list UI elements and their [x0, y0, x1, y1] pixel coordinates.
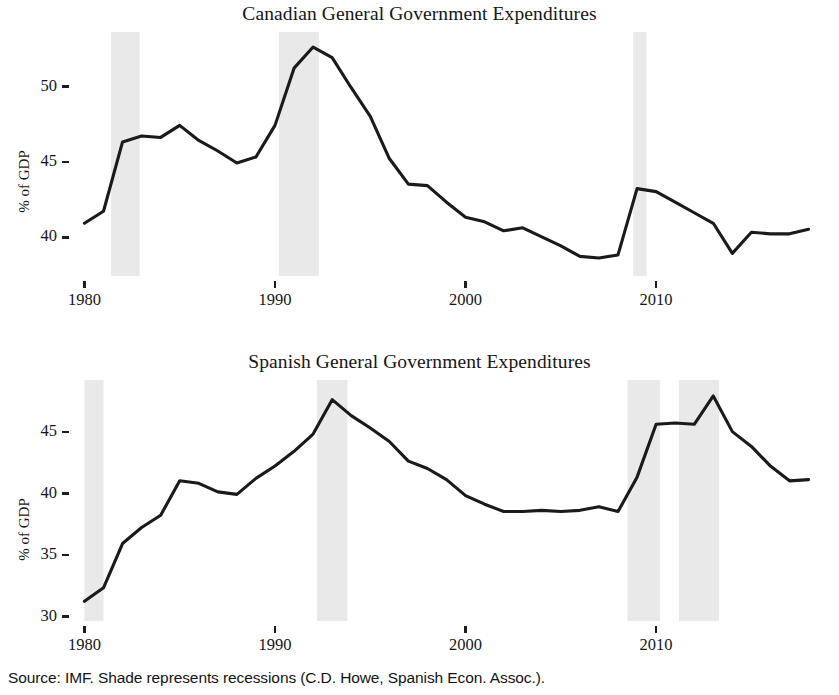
recession-shade: [279, 32, 319, 276]
x-tick-label: 1980: [44, 290, 124, 310]
panel-canada-plot-area: % of GDP 4045501980199020002010: [0, 25, 839, 325]
y-tick-label: 45: [5, 151, 57, 171]
x-tick-label: 2010: [616, 290, 696, 310]
panel-spain-plot-area: % of GDP 303540451980199020002010: [0, 373, 839, 668]
x-tick-label: 1990: [235, 290, 315, 310]
y-tick-label: 35: [5, 544, 57, 564]
recession-shade: [633, 32, 646, 276]
panel-spain: Spanish General Government Expenditures …: [0, 348, 839, 668]
y-tick-label: 50: [5, 76, 57, 96]
recession-shade: [111, 32, 140, 276]
x-tick-label: 1980: [44, 635, 124, 655]
x-tickmark: [464, 626, 467, 633]
y-tickmark: [62, 554, 69, 557]
recession-shade: [84, 380, 103, 621]
x-tickmark: [274, 626, 277, 633]
panel-canada-title: Canadian General Government Expenditures: [0, 0, 839, 25]
panel-canada: Canadian General Government Expenditures…: [0, 0, 839, 325]
x-tick-label: 1990: [235, 635, 315, 655]
y-tickmark: [62, 85, 69, 88]
y-tickmark: [62, 615, 69, 618]
source-note: Source: IMF. Shade represents recessions…: [8, 669, 545, 687]
x-tick-label: 2000: [426, 290, 506, 310]
panel-spain-title: Spanish General Government Expenditures: [0, 348, 839, 373]
x-tickmark: [274, 281, 277, 288]
y-tickmark: [62, 492, 69, 495]
x-tick-label: 2000: [426, 635, 506, 655]
x-tickmark: [83, 626, 86, 633]
x-tickmark: [655, 281, 658, 288]
y-tickmark: [62, 431, 69, 434]
x-tickmark: [83, 281, 86, 288]
x-tickmark: [464, 281, 467, 288]
y-tick-label: 40: [5, 226, 57, 246]
recession-shade: [628, 380, 660, 621]
y-tickmark: [62, 161, 69, 164]
panel-spain-svg: [0, 373, 839, 668]
y-tick-label: 30: [5, 606, 57, 626]
figure-root: Canadian General Government Expenditures…: [0, 0, 839, 695]
y-tickmark: [62, 236, 69, 239]
y-tick-label: 45: [5, 421, 57, 441]
y-tick-label: 40: [5, 483, 57, 503]
x-tickmark: [655, 626, 658, 633]
panel-canada-svg: [0, 25, 839, 325]
x-tick-label: 2010: [616, 635, 696, 655]
